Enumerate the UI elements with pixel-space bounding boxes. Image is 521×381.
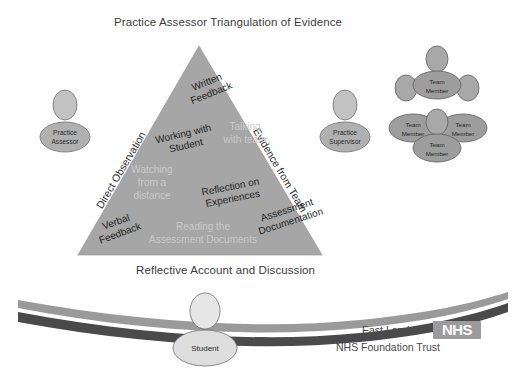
figure-group-team-members: Team Member Team Member Team Member [389, 46, 487, 162]
practice-assessor-head-icon [53, 90, 77, 120]
student-head-icon [190, 293, 220, 329]
practice-supervisor-label-line2: Supervisor [329, 138, 361, 146]
team-member-top-body-icon [413, 71, 461, 99]
team-member-front-body-icon [413, 134, 461, 162]
team-member-top-head-icon [426, 46, 448, 72]
watching-from-a-distance-line3: distance [133, 190, 171, 201]
logo-org-line1: East London [362, 324, 421, 336]
bottom-caption: Reflective Account and Discussion [136, 264, 315, 276]
nhs-badge-text: NHS [442, 321, 473, 338]
team-member-front-head-icon [426, 109, 448, 135]
reading-assessment-documents-line1: Reading the [176, 221, 230, 232]
figure-practice-supervisor: Practice Supervisor [320, 90, 370, 152]
practice-supervisor-label-line1: Practice [333, 129, 357, 136]
team-member-back-left-line1: Team [405, 121, 420, 128]
practice-assessor-label-line1: Practice [53, 129, 77, 136]
figure-team-member-top: Team Member [413, 46, 461, 99]
team-member-top-line2: Member [426, 87, 449, 94]
triangulation-diagram: Practice Assessor Triangulation of Evide… [0, 0, 521, 381]
watching-from-a-distance-line1: Watching [131, 164, 172, 175]
talking-with-team-line2: with team [223, 134, 267, 145]
team-member-top-line1: Team [429, 78, 444, 85]
talking-with-team-line1: Talking [229, 121, 260, 132]
practice-supervisor-body-icon [320, 122, 370, 152]
diagram-canvas: Practice Assessor Triangulation of Evide… [0, 0, 521, 381]
team-member-front-line1: Team [429, 141, 444, 148]
reading-assessment-documents-line2: Assessment Documents [149, 234, 257, 245]
team-member-front-line2: Member [426, 150, 449, 157]
page-title: Practice Assessor Triangulation of Evide… [114, 16, 342, 28]
student-label: Student [191, 344, 219, 353]
team-member-back-left-line2: Member [402, 130, 425, 137]
practice-assessor-body-icon [40, 122, 90, 152]
practice-supervisor-head-icon [333, 90, 357, 120]
figure-practice-assessor: Practice Assessor [40, 90, 90, 152]
team-member-back-right-line1: Team [455, 121, 470, 128]
logo-org-line2: NHS Foundation Trust [336, 341, 440, 353]
watching-from-a-distance-line2: from a [138, 177, 167, 188]
team-member-back-right-line2: Member [452, 130, 475, 137]
practice-assessor-label-line2: Assessor [51, 138, 79, 145]
